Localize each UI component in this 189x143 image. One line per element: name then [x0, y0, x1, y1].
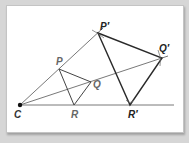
label-q: Q: [93, 79, 101, 90]
dilation-diagram: C P Q R P′ Q′ R′: [0, 0, 189, 143]
label-p-prime: P′: [100, 21, 110, 32]
label-r: R: [71, 109, 79, 120]
label-q-prime: Q′: [159, 43, 170, 54]
center-point-c: [18, 103, 22, 107]
label-p: P: [56, 56, 63, 67]
label-c: C: [14, 109, 22, 120]
label-r-prime: R′: [128, 109, 138, 120]
